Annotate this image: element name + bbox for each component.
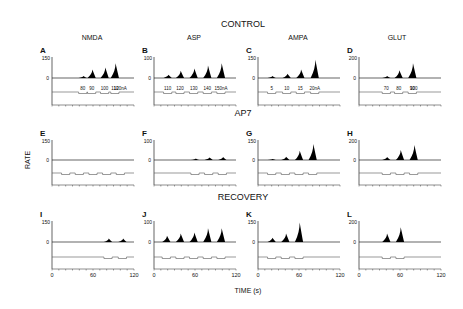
- current-label: 10: [284, 86, 290, 91]
- y-tick-zero: 0: [252, 75, 255, 81]
- current-label: 140: [204, 86, 212, 91]
- row-title-control: CONTROL: [221, 19, 265, 29]
- x-tick-label: 0: [152, 272, 155, 278]
- current-label: 15: [298, 86, 304, 91]
- current-label: 120nA: [114, 86, 127, 91]
- y-tick-max: 150: [248, 138, 257, 144]
- panel-l: L2000060120: [347, 210, 446, 278]
- histogram-burst: [396, 227, 404, 242]
- col-title-glut: GLUT: [388, 34, 407, 41]
- y-tick-zero: 0: [46, 157, 49, 163]
- histogram-burst: [281, 234, 289, 242]
- x-tick-label: 0: [256, 272, 259, 278]
- panel-i: I1500060120: [40, 210, 139, 278]
- figure-canvas: CONTROL AP7 RECOVERY NMDA ASP AMPA GLUT …: [0, 0, 463, 309]
- histogram-burst: [410, 145, 418, 160]
- y-tick-max: 200: [349, 138, 358, 144]
- y-tick-max: 150: [248, 55, 257, 61]
- current-label: 130: [190, 86, 198, 91]
- panel-e: E1500: [40, 129, 134, 187]
- stimulus-trace: [359, 173, 441, 175]
- histogram-burst: [118, 239, 126, 243]
- panel-b: B1000110120130140150nA: [142, 46, 236, 107]
- y-tick-zero: 0: [353, 75, 356, 81]
- x-tick-label: 120: [129, 272, 138, 278]
- y-tick-zero: 0: [148, 157, 151, 163]
- histogram-burst: [164, 75, 172, 78]
- x-tick-label: 120: [335, 272, 344, 278]
- y-tick-max: 150: [248, 219, 257, 225]
- current-label: 120: [176, 86, 184, 91]
- panel-letter: H: [347, 129, 353, 138]
- histogram-burst: [295, 151, 303, 160]
- stimulus-trace: [359, 257, 441, 259]
- y-tick-max: 100: [144, 219, 153, 225]
- histogram-burst: [218, 157, 226, 160]
- panel-k: K1500060120: [246, 210, 345, 278]
- panel-letter: A: [40, 46, 46, 55]
- x-axis-label: TIME (s): [235, 287, 262, 295]
- histogram-burst: [311, 60, 319, 78]
- stimulus-trace: [154, 92, 236, 94]
- panel-h: H2000: [347, 129, 441, 187]
- histogram-burst: [176, 234, 184, 242]
- y-tick-zero: 0: [353, 157, 356, 163]
- stimulus-trace: [154, 257, 236, 259]
- current-label: 80: [80, 86, 86, 91]
- x-tick-label: 60: [296, 272, 302, 278]
- x-tick-label: 60: [192, 272, 198, 278]
- y-tick-max: 100: [144, 55, 153, 61]
- histogram-burst: [217, 228, 225, 242]
- panel-d: D2000708090100: [347, 46, 441, 107]
- x-tick-label: 60: [90, 272, 96, 278]
- panel-letter: B: [142, 46, 148, 55]
- panel-g: G1500: [246, 129, 340, 187]
- histogram-burst: [296, 70, 304, 78]
- panel-letter: C: [246, 46, 252, 55]
- histogram-burst: [268, 238, 276, 242]
- y-tick-zero: 0: [148, 239, 151, 245]
- current-label: 20nA: [309, 86, 320, 91]
- x-tick-label: 120: [436, 272, 445, 278]
- histogram-burst: [176, 71, 184, 78]
- stimulus-trace: [258, 257, 340, 259]
- panel-letter: G: [246, 129, 252, 138]
- y-tick-max: 200: [349, 55, 358, 61]
- y-tick-max: 150: [42, 138, 51, 144]
- y-tick-zero: 0: [252, 157, 255, 163]
- row-title-recovery: RECOVERY: [218, 192, 268, 202]
- histogram-burst: [309, 144, 317, 160]
- histogram-burst: [283, 74, 291, 78]
- current-label: 100: [410, 86, 418, 91]
- histogram-burst: [408, 63, 416, 78]
- current-label: 100: [101, 86, 109, 91]
- y-tick-zero: 0: [252, 239, 255, 245]
- panel-letter: F: [142, 129, 147, 138]
- panel-letter: L: [347, 210, 352, 219]
- panel-letter: E: [40, 129, 46, 138]
- histogram-burst: [88, 70, 96, 78]
- y-tick-max: 150: [42, 219, 51, 225]
- y-tick-zero: 0: [46, 75, 49, 81]
- histogram-burst: [162, 236, 170, 242]
- histogram-burst: [295, 222, 303, 242]
- histogram-burst: [382, 234, 390, 242]
- stimulus-trace: [52, 92, 134, 94]
- panels: A15008090100110120nAB1000110120130140150…: [40, 46, 446, 278]
- histogram-burst: [190, 233, 198, 242]
- stimulus-trace: [154, 173, 236, 175]
- col-title-asp: ASP: [187, 34, 201, 41]
- histogram-burst: [190, 69, 198, 78]
- panel-letter: J: [142, 210, 146, 219]
- histogram-burst: [111, 63, 119, 78]
- current-label: 150nA: [214, 86, 227, 91]
- histogram-burst: [382, 157, 390, 160]
- panel-letter: D: [347, 46, 353, 55]
- histogram-burst: [203, 228, 211, 242]
- current-label: 110: [164, 86, 172, 91]
- current-label: 70: [384, 86, 390, 91]
- y-axis-label: RATE: [24, 151, 31, 169]
- panel-f: F1000: [142, 129, 236, 187]
- histogram-burst: [396, 150, 404, 160]
- current-label: 80: [396, 86, 402, 91]
